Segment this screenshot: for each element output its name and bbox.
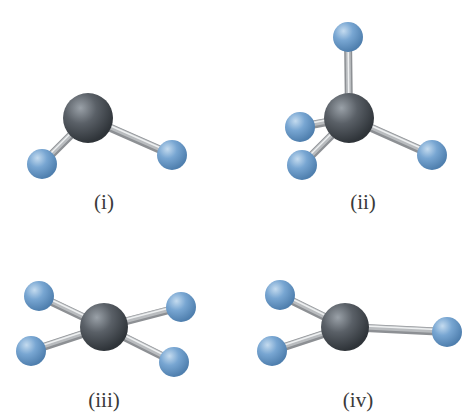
molecule-label-iv: (iv): [343, 388, 373, 413]
molecule-1: [27, 93, 187, 179]
molecule-drawing: [0, 0, 468, 420]
outer-atom: [166, 292, 196, 322]
outer-atom: [265, 280, 295, 310]
outer-atom: [285, 112, 315, 142]
outer-atom: [333, 22, 363, 52]
outer-atom: [159, 347, 189, 377]
outer-atom: [432, 317, 462, 347]
molecule-label-iii: (iii): [88, 388, 120, 413]
molecule-3: [16, 281, 196, 377]
central-atom: [80, 303, 128, 351]
outer-atom: [24, 281, 54, 311]
molecule-label-i: (i): [94, 190, 114, 215]
outer-atom: [157, 140, 187, 170]
outer-atom: [257, 336, 287, 366]
molecule-2: [285, 22, 447, 180]
central-atom: [324, 93, 374, 143]
outer-atom: [287, 150, 317, 180]
molecule-diagram: (i) (ii) (iii) (iv): [0, 0, 468, 420]
outer-atom: [417, 140, 447, 170]
molecule-label-ii: (ii): [350, 190, 376, 215]
central-atom: [321, 303, 369, 351]
central-atom: [63, 93, 113, 143]
outer-atom: [27, 149, 57, 179]
atoms-layer: [16, 22, 462, 377]
outer-atom: [16, 336, 46, 366]
molecule-4: [257, 280, 462, 366]
